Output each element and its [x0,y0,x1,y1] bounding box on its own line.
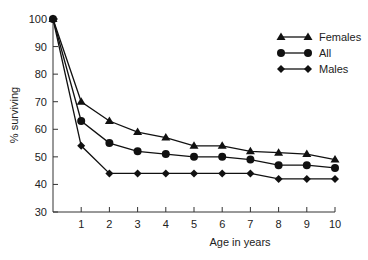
x-tick-label: 10 [329,218,341,230]
legend: FemalesAllMales [277,31,362,75]
diamond-marker-icon [162,169,170,177]
legend-label: Males [319,63,349,75]
y-tick-label: 100 [29,13,47,25]
y-tick-label: 60 [35,123,47,135]
diamond-marker-icon [303,175,311,183]
circle-marker-icon [77,117,85,125]
legend-item-all: All [277,47,331,59]
y-tick-label: 90 [35,41,47,53]
circle-marker-icon [246,156,254,164]
y-tick-label: 70 [35,96,47,108]
x-tick-label: 9 [304,218,310,230]
survival-chart: 3040506070809010012345678910 FemalesAllM… [0,0,368,260]
circle-marker-icon [303,161,311,169]
y-axis-label: % surviving [8,87,20,143]
y-tick-label: 40 [35,178,47,190]
series-line [53,19,335,160]
series-lines [49,15,340,183]
triangle-marker-icon [77,97,86,105]
x-tick-label: 5 [191,218,197,230]
y-tick-label: 80 [35,68,47,80]
x-tick-label: 3 [135,218,141,230]
legend-label: Females [319,31,362,43]
circle-marker-icon [277,49,285,57]
circle-marker-icon [304,49,312,57]
diamond-marker-icon [246,169,254,177]
diamond-marker-icon [277,65,285,73]
circle-marker-icon [134,147,142,155]
circle-marker-icon [190,153,198,161]
x-tick-label: 1 [78,218,84,230]
x-tick-label: 4 [163,218,169,230]
y-tick-label: 30 [35,206,47,218]
x-tick-label: 2 [106,218,112,230]
diamond-marker-icon [304,65,312,73]
x-tick-label: 7 [247,218,253,230]
diamond-marker-icon [218,169,226,177]
x-tick-label: 8 [276,218,282,230]
circle-marker-icon [162,150,170,158]
legend-item-females: Females [277,31,362,43]
diamond-marker-icon [275,175,283,183]
legend-label: All [319,47,331,59]
circle-marker-icon [275,161,283,169]
y-tick-label: 50 [35,151,47,163]
circle-marker-icon [331,164,339,172]
circle-marker-icon [218,153,226,161]
triangle-marker-icon [277,33,286,41]
diamond-marker-icon [190,169,198,177]
diamond-marker-icon [134,169,142,177]
legend-item-males: Males [277,63,349,75]
x-axis-label: Age in years [209,236,271,248]
circle-marker-icon [105,139,113,147]
x-tick-label: 6 [219,218,225,230]
triangle-marker-icon [105,117,114,125]
triangle-marker-icon [304,33,313,41]
triangle-marker-icon [218,141,227,149]
diamond-marker-icon [331,175,339,183]
